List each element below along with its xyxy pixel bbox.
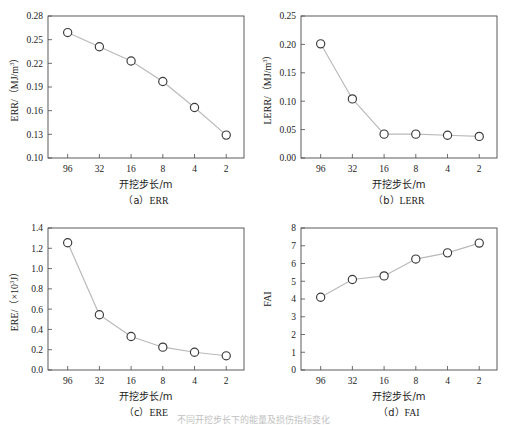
figure-container: 0.100.130.160.190.220.250.28963216842ERR… xyxy=(0,0,506,425)
x-tick-label: 2 xyxy=(224,164,229,174)
x-tick-label: 8 xyxy=(413,164,418,174)
data-point-marker xyxy=(64,28,72,36)
x-tick-label: 32 xyxy=(95,376,105,386)
y-tick-label: 1 xyxy=(291,348,296,358)
data-point-marker xyxy=(127,332,135,340)
y-tick-label: 0.00 xyxy=(279,153,296,163)
y-axis-title: ERE/（×103J） xyxy=(8,267,19,332)
x-tick-label: 96 xyxy=(63,376,73,386)
data-point-marker xyxy=(222,131,230,139)
chart-c: 0.00.20.40.60.81.01.21.4963216842ERE/（×1… xyxy=(0,212,253,424)
data-point-marker xyxy=(127,57,135,65)
data-point-marker xyxy=(95,43,103,51)
y-tick-label: 1.0 xyxy=(31,264,43,274)
data-point-marker xyxy=(95,311,103,319)
x-axis-title: 开挖步长/m xyxy=(119,390,172,402)
y-tick-label: 0.22 xyxy=(26,59,43,69)
y-tick-label: 0.16 xyxy=(26,106,43,116)
y-tick-label: 0.0 xyxy=(31,365,43,375)
x-tick-label: 96 xyxy=(316,376,326,386)
data-series-line xyxy=(68,33,227,136)
y-tick-label: 0.20 xyxy=(279,40,296,50)
x-tick-label: 4 xyxy=(192,376,197,386)
data-point-marker xyxy=(475,132,483,140)
data-point-marker xyxy=(443,249,451,257)
data-point-marker xyxy=(348,95,356,103)
x-tick-label: 2 xyxy=(477,376,482,386)
data-point-marker xyxy=(159,343,167,351)
x-tick-label: 8 xyxy=(160,164,165,174)
y-tick-label: 8 xyxy=(291,223,296,233)
x-tick-label: 96 xyxy=(63,164,73,174)
x-axis-title: 开挖步长/m xyxy=(372,390,425,402)
data-point-marker xyxy=(412,255,420,263)
x-tick-label: 4 xyxy=(445,164,450,174)
y-axis-title: FAI xyxy=(262,291,273,306)
y-tick-label: 6 xyxy=(291,259,296,269)
data-point-marker xyxy=(380,272,388,280)
y-tick-label: 7 xyxy=(291,241,296,251)
y-tick-label: 0.25 xyxy=(279,11,296,21)
x-tick-label: 32 xyxy=(348,376,358,386)
y-tick-label: 0.6 xyxy=(31,305,43,315)
y-tick-label: 4 xyxy=(291,294,296,304)
data-point-marker xyxy=(443,131,451,139)
y-tick-label: 3 xyxy=(291,312,296,322)
x-tick-label: 2 xyxy=(224,376,229,386)
y-tick-label: 0.25 xyxy=(26,35,43,45)
y-tick-label: 2 xyxy=(291,330,296,340)
y-tick-label: 0 xyxy=(291,365,296,375)
figure-footer-caption: 不同开挖步长下的能量及损伤指标变化 xyxy=(0,414,506,425)
chart-b: 0.000.050.100.150.200.25963216842LERR/（M… xyxy=(253,0,506,212)
y-tick-label: 0.10 xyxy=(279,97,296,107)
plot-frame xyxy=(301,228,497,370)
chart-a: 0.100.130.160.190.220.250.28963216842ERR… xyxy=(0,0,253,212)
y-axis-title: LERR/（MJ/m3） xyxy=(261,50,272,125)
data-point-marker xyxy=(317,40,325,48)
subplot-caption: （a）ERR xyxy=(123,195,169,206)
data-point-marker xyxy=(412,130,420,138)
y-axis-title: ERR/（MJ/m3） xyxy=(8,53,19,122)
subplot-b-lerr: 0.000.050.100.150.200.25963216842LERR/（M… xyxy=(253,0,506,212)
subplot-caption: （b）LERR xyxy=(373,195,425,206)
y-tick-label: 0.8 xyxy=(31,284,43,294)
data-point-marker xyxy=(222,352,230,360)
y-tick-label: 0.15 xyxy=(279,68,296,78)
x-tick-label: 16 xyxy=(126,164,136,174)
x-tick-label: 8 xyxy=(413,376,418,386)
y-tick-label: 0.4 xyxy=(31,325,43,335)
x-tick-label: 2 xyxy=(477,164,482,174)
data-series-line xyxy=(321,44,480,137)
data-point-marker xyxy=(348,275,356,283)
subplot-a-err: 0.100.130.160.190.220.250.28963216842ERR… xyxy=(0,0,253,212)
subplot-c-ere: 0.00.20.40.60.81.01.21.4963216842ERE/（×1… xyxy=(0,212,253,424)
subplot-d-fai: 012345678963216842FAI开挖步长/m（d）FAI xyxy=(253,212,506,424)
chart-d: 012345678963216842FAI开挖步长/m（d）FAI xyxy=(253,212,506,424)
data-point-marker xyxy=(64,239,72,247)
data-point-marker xyxy=(317,293,325,301)
x-tick-label: 4 xyxy=(445,376,450,386)
plot-frame xyxy=(48,228,244,370)
x-tick-label: 16 xyxy=(379,164,389,174)
data-point-marker xyxy=(190,348,198,356)
y-tick-label: 1.2 xyxy=(31,244,43,254)
plot-frame xyxy=(301,16,497,158)
x-tick-label: 16 xyxy=(379,376,389,386)
x-axis-title: 开挖步长/m xyxy=(372,178,425,190)
data-point-marker xyxy=(475,239,483,247)
x-tick-label: 8 xyxy=(160,376,165,386)
data-point-marker xyxy=(159,77,167,85)
x-tick-label: 96 xyxy=(316,164,326,174)
y-tick-label: 0.13 xyxy=(26,130,43,140)
x-tick-label: 32 xyxy=(348,164,358,174)
x-tick-label: 32 xyxy=(95,164,105,174)
data-point-marker xyxy=(380,130,388,138)
y-tick-label: 0.10 xyxy=(26,153,43,163)
data-series-line xyxy=(321,243,480,297)
x-tick-label: 4 xyxy=(192,164,197,174)
x-tick-label: 16 xyxy=(126,376,136,386)
y-tick-label: 1.4 xyxy=(31,223,43,233)
data-series-line xyxy=(68,243,227,356)
y-tick-label: 0.2 xyxy=(31,345,43,355)
y-tick-label: 0.05 xyxy=(279,125,296,135)
